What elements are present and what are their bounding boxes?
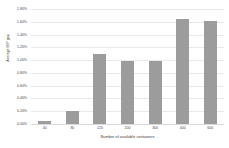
y-axis-tick-label: 1.40% [0,33,27,37]
bar-slot [59,9,87,124]
x-axis-tick-label: 200 [114,126,142,130]
bar [149,61,162,124]
bar [176,19,189,124]
y-axis-tick-label: 1.60% [0,20,27,24]
x-axis-tick-label: 80 [59,126,87,130]
bar-chart: Average MIP gap 1.80%1.60%1.40%1.20%1.00… [0,0,229,148]
y-axis-tick-label: 0.20% [0,109,27,113]
bar-slot [141,9,169,124]
bar [93,54,106,124]
bar [204,21,217,125]
gridline [31,124,224,125]
y-axis-tick-label: 0.00% [0,122,27,126]
bar [121,61,134,124]
x-axis-tick-labels: 4080120200300400600 [31,126,224,134]
bar-slot [31,9,59,124]
bar-slot [86,9,114,124]
y-axis-tick-label: 1.20% [0,45,27,49]
x-axis-tick-label: 600 [196,126,224,130]
x-axis-tick-label: 300 [141,126,169,130]
x-axis-tick-label: 400 [169,126,197,130]
x-axis-tick-label: 120 [86,126,114,130]
y-axis-tick-label: 0.40% [0,96,27,100]
bar [38,121,51,124]
bar [66,111,79,124]
y-axis-tick-label: 1.80% [0,7,27,11]
plot-area [31,9,224,124]
x-axis-title: Number of available containers [31,135,224,139]
y-axis-tick-labels: 1.80%1.60%1.40%1.20%1.00%0.80%0.60%0.40%… [0,9,29,124]
bar-series [31,9,224,124]
x-axis-tick-label: 40 [31,126,59,130]
y-axis-tick-label: 0.60% [0,84,27,88]
bar-slot [114,9,142,124]
bar-slot [196,9,224,124]
bar-slot [169,9,197,124]
y-axis-tick-label: 1.00% [0,58,27,62]
y-axis-tick-label: 0.80% [0,71,27,75]
